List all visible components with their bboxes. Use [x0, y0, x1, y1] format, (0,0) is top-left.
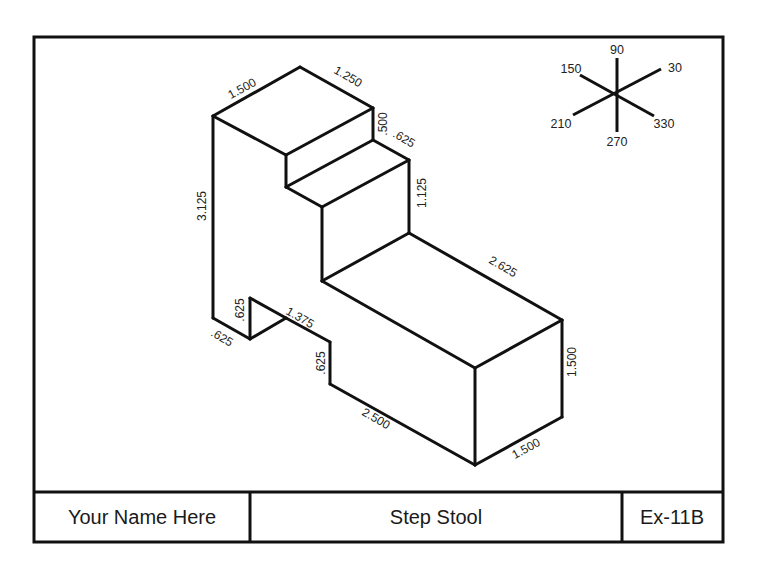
edge-notch-top [250, 298, 286, 318]
edge-mid-tread-front [322, 160, 409, 207]
axis-label-90: 90 [610, 43, 624, 57]
drawing-sheet: Your Name Here Step Stool Ex-11B [0, 0, 763, 570]
dim-front-width: 1.500 [510, 435, 543, 462]
dim-upper-step-rise: .500 [376, 112, 390, 136]
dim-seat-length: 2.625 [486, 253, 519, 280]
edge-lower-riser-bottom [322, 233, 409, 281]
dim-back-height: 3.125 [195, 191, 209, 221]
axis-label-30: 30 [668, 61, 682, 75]
title-block-title: Step Stool [390, 506, 482, 528]
edge-base-bottom [330, 384, 475, 465]
edge-seat-front [322, 281, 475, 368]
edge-notch-depth [250, 318, 286, 339]
dim-upper-step-run: .625 [390, 127, 418, 151]
isometric-axes-legend: 90 30 150 210 270 330 [551, 43, 682, 149]
axis-label-330: 330 [654, 117, 675, 131]
dim-lower-step-rise: 1.125 [415, 178, 429, 208]
title-block-name: Your Name Here [68, 506, 216, 528]
dimension-labels: 1.500 1.250 .500 .625 1.125 2.625 1.500 … [195, 63, 579, 462]
dim-base-step: .625 [314, 351, 328, 375]
title-block-number: Ex-11B [640, 506, 704, 528]
axis-label-210: 210 [551, 117, 572, 131]
edge-seat-end [475, 320, 562, 368]
axis-label-150: 150 [561, 62, 582, 76]
axis-label-270: 270 [607, 135, 628, 149]
edge-mid-tread-left [286, 187, 322, 207]
edge-top-front-left [213, 116, 286, 155]
dim-notch-height: .625 [233, 298, 247, 322]
edge-seat-back [409, 233, 562, 320]
dim-front-height: 1.500 [565, 347, 579, 377]
